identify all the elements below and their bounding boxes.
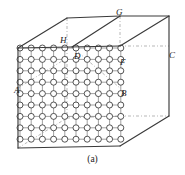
- atom-node: [28, 102, 34, 108]
- atom-node: [28, 113, 34, 119]
- atom-node: [51, 56, 57, 62]
- atom-node: [51, 102, 57, 108]
- atom-node: [95, 68, 101, 74]
- atom-node: [51, 45, 57, 51]
- atom-node: [73, 125, 79, 131]
- atom-node: [62, 113, 68, 119]
- atom-node: [95, 125, 101, 131]
- front-right-slant-lower: [120, 116, 169, 146]
- atom-node: [28, 56, 34, 62]
- top-face-right-slant: [120, 16, 169, 46]
- atom-node: [84, 113, 90, 119]
- vertex-label-d: D: [74, 52, 81, 61]
- vertex-label-f: F: [120, 58, 126, 67]
- figure-container: GHDCFAB (a): [0, 0, 185, 175]
- atom-node: [95, 102, 101, 108]
- figure-caption: (a): [0, 155, 185, 165]
- atom-node: [73, 79, 79, 85]
- atom-node: [118, 79, 124, 85]
- atom-node: [107, 125, 113, 131]
- g-to-front-slant: [72, 16, 120, 47]
- atom-node: [107, 79, 113, 85]
- atom-node: [62, 56, 68, 62]
- atom-node: [118, 125, 124, 131]
- atom-node: [51, 113, 57, 119]
- lattice-bonds: [20, 48, 121, 139]
- atom-node: [62, 45, 68, 51]
- atom-node: [62, 136, 68, 142]
- atom-node: [39, 79, 45, 85]
- atom-node: [73, 136, 79, 142]
- atom-node: [107, 56, 113, 62]
- atom-node: [84, 56, 90, 62]
- bottom-front-edge: [18, 146, 120, 148]
- atom-node: [107, 113, 113, 119]
- atom-node: [73, 113, 79, 119]
- atom-node: [107, 102, 113, 108]
- atom-node: [84, 102, 90, 108]
- crystal-lattice-diagram: [0, 0, 185, 175]
- atom-node: [28, 79, 34, 85]
- atom-node: [62, 79, 68, 85]
- atom-node: [118, 136, 124, 142]
- atom-node: [51, 136, 57, 142]
- atom-node: [39, 113, 45, 119]
- atom-node: [62, 125, 68, 131]
- atom-node: [39, 68, 45, 74]
- atom-node: [73, 68, 79, 74]
- atom-node: [28, 136, 34, 142]
- atom-node: [84, 68, 90, 74]
- atom-node: [95, 113, 101, 119]
- atom-node: [28, 68, 34, 74]
- atom-node: [95, 91, 101, 97]
- atom-node: [62, 91, 68, 97]
- atom-node: [51, 91, 57, 97]
- atom-node: [51, 125, 57, 131]
- vertex-label-b: B: [121, 89, 127, 98]
- atom-node: [95, 79, 101, 85]
- atom-node: [95, 136, 101, 142]
- atom-node: [39, 125, 45, 131]
- atom-node: [118, 68, 124, 74]
- atom-node: [51, 68, 57, 74]
- vertex-label-c: C: [169, 51, 175, 60]
- atom-node: [73, 91, 79, 97]
- back-top-edge: [67, 16, 120, 18]
- atom-node: [84, 79, 90, 85]
- atom-node: [28, 91, 34, 97]
- atom-node: [84, 136, 90, 142]
- atom-node: [39, 56, 45, 62]
- atom-node: [84, 45, 90, 51]
- atom-node: [39, 102, 45, 108]
- atom-node: [51, 79, 57, 85]
- atom-node: [95, 56, 101, 62]
- atom-node: [39, 136, 45, 142]
- atom-node: [107, 136, 113, 142]
- atom-node: [62, 102, 68, 108]
- atom-node: [118, 102, 124, 108]
- atom-node: [62, 68, 68, 74]
- atom-node: [28, 125, 34, 131]
- vertex-label-h: H: [60, 36, 67, 45]
- atom-node: [84, 125, 90, 131]
- atom-node: [107, 68, 113, 74]
- atom-node: [73, 102, 79, 108]
- atom-node: [39, 91, 45, 97]
- atom-node: [84, 91, 90, 97]
- vertex-label-a: A: [14, 86, 20, 95]
- atom-node: [118, 113, 124, 119]
- vertex-label-g: G: [116, 8, 123, 17]
- atom-node: [107, 91, 113, 97]
